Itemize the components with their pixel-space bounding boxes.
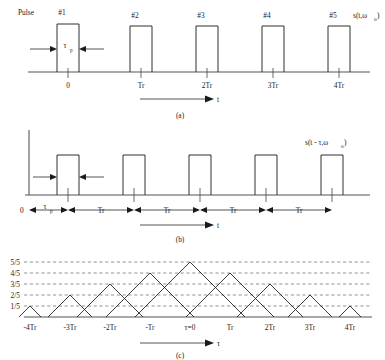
pulse-label-4: #4: [263, 11, 271, 20]
panel-a-tick-label-1: Tr: [138, 81, 145, 90]
panel-c-x-label-4: τ=0: [185, 323, 196, 332]
pulse-rect-3: [196, 26, 218, 72]
panel-a-tick-label-4: 4Tr: [334, 81, 345, 90]
panel-c-y-label-5-5: 5/5: [11, 258, 21, 267]
panel-c-y-label-2-5: 2/5: [11, 291, 21, 300]
panel-c-gridlines: [24, 262, 372, 306]
panel-a-tick-label-3: 3Tr: [268, 81, 279, 90]
triangle-peak-5: [135, 262, 245, 317]
panel-c-x-label-1: -3Tr: [64, 323, 77, 332]
panel-a-pulse-width-dimension: τ p: [30, 41, 104, 53]
panel-b-dimension-row: 0 τ p Tr Tr Tr Tr: [20, 202, 332, 215]
panel-a-tau-p-sub: p: [70, 47, 73, 53]
panel-c-x-label-8: 4Tr: [345, 323, 356, 332]
panel-a-t-label: t: [217, 95, 220, 104]
panel-c-tau-arrow-head: [205, 340, 214, 347]
panel-a-signal-label-close: ): [377, 11, 380, 20]
panel-b-interval-label-1: Tr: [98, 206, 105, 215]
panel-b-signal-label-close: ): [344, 138, 347, 147]
panel-c-x-label-6: 2Tr: [265, 323, 276, 332]
panel-a-pulse-train: Pulse #1 #2 #3 #4 #5 s(t,ω o ) τ p 0 Tr …: [0, 0, 385, 110]
panel-b-tau-p-sub: p: [50, 208, 53, 214]
pulse-label-1: #1: [58, 8, 66, 17]
panel-a-caption-group: (a): [0, 107, 385, 123]
panel-b-delayed-pulse-train: s(t - τ,ω o ) 0 τ p Tr: [0, 124, 385, 236]
panel-b-signal-label-text: s(t - τ,ω: [305, 138, 328, 147]
panel-b-tau-p-label: τ: [44, 202, 47, 211]
panel-c-x-label-7: 3Tr: [305, 323, 316, 332]
panel-b-arrow-head-right: [50, 174, 57, 180]
panel-b-interval-label-3: Tr: [230, 206, 237, 215]
pulse-train-autocorrelation-figure: Pulse #1 #2 #3 #4 #5 s(t,ω o ) τ p 0 Tr …: [0, 0, 385, 360]
panel-c-y-label-3-5: 3/5: [11, 280, 21, 289]
panel-a-signal-label-text: s(t,ω: [353, 11, 367, 20]
pulse-rect-5: [328, 26, 350, 72]
panel-a-pulse-title: Pulse: [18, 8, 35, 17]
pulse-label-3: #3: [197, 11, 205, 20]
t-arrow-head: [205, 96, 214, 103]
dim-arrow-right-2: [193, 207, 200, 213]
pulse-label-2: #2: [131, 11, 139, 20]
triangle-peak-1: [19, 306, 41, 317]
panel-a-signal-label: s(t,ω o ): [353, 11, 380, 22]
panel-c-x-label-5: Tr: [227, 323, 234, 332]
panel-a-tau-p-label: τ: [64, 41, 67, 50]
panel-a-t-arrow: t: [140, 95, 220, 104]
panel-c-tau-label: τ: [217, 339, 220, 348]
dim-arrow-right-0: [61, 207, 68, 213]
panel-b-t-arrow-head: [205, 222, 214, 229]
dim-arrow-left-4: [266, 207, 273, 213]
panel-c-y-label-4-5: 4/5: [11, 269, 21, 278]
panel-b-t-label: t: [217, 221, 220, 230]
dim-arrow-right-3: [259, 207, 266, 213]
dim-arrow-right-4: [325, 207, 332, 213]
caption-b: (b): [176, 235, 185, 244]
dim-arrow-left-3: [200, 207, 207, 213]
panel-a-pulses: [57, 24, 350, 72]
panel-a-ticks: [68, 68, 339, 78]
panel-c-x-label-0: -4Tr: [24, 323, 37, 332]
panel-a-tick-label-2: 2Tr: [202, 81, 213, 90]
panel-b-interval-label-4: Tr: [296, 206, 303, 215]
panel-c-x-label-3: -Tr: [145, 323, 155, 332]
panel-b-origin-label: 0: [20, 206, 24, 215]
pulse-rect-2: [130, 26, 152, 72]
pulse-label-5: #5: [329, 11, 337, 20]
panel-a-tick-label-0: 0: [66, 81, 70, 90]
triangle-peak-9: [339, 306, 361, 317]
panel-b-interval-label-2: Tr: [164, 206, 171, 215]
caption-c: (c): [176, 351, 185, 360]
panel-c-autocorrelation-chart: 5/5 4/5 3/5 2/5 1/5 -4Tr -3Tr -2Tr -Tr τ…: [0, 248, 385, 360]
pulse-rect-1: [57, 24, 79, 72]
panel-b-t-arrow: t: [140, 221, 220, 230]
dim-arrow-left-0: [29, 207, 36, 213]
panel-b-pulse-width-dimension: [33, 174, 104, 180]
dim-arrow-left-1: [68, 207, 75, 213]
panel-b-caption-group: (b): [0, 231, 385, 247]
panel-c-triangles: [19, 262, 361, 317]
panel-b-signal-label: s(t - τ,ω o ): [305, 138, 347, 149]
panel-c-tau-arrow: τ: [140, 339, 220, 348]
pulse-rect-4: [262, 26, 284, 72]
caption-a: (a): [176, 111, 185, 120]
panel-b-arrow-head-left: [79, 174, 86, 180]
dim-arrow-right-1: [127, 207, 134, 213]
panel-c-x-label-2: -2Tr: [104, 323, 117, 332]
arrow-head-right: [50, 46, 57, 52]
panel-c-y-label-1-5: 1/5: [11, 302, 21, 311]
arrow-head-left: [79, 46, 86, 52]
dim-arrow-left-2: [134, 207, 141, 213]
